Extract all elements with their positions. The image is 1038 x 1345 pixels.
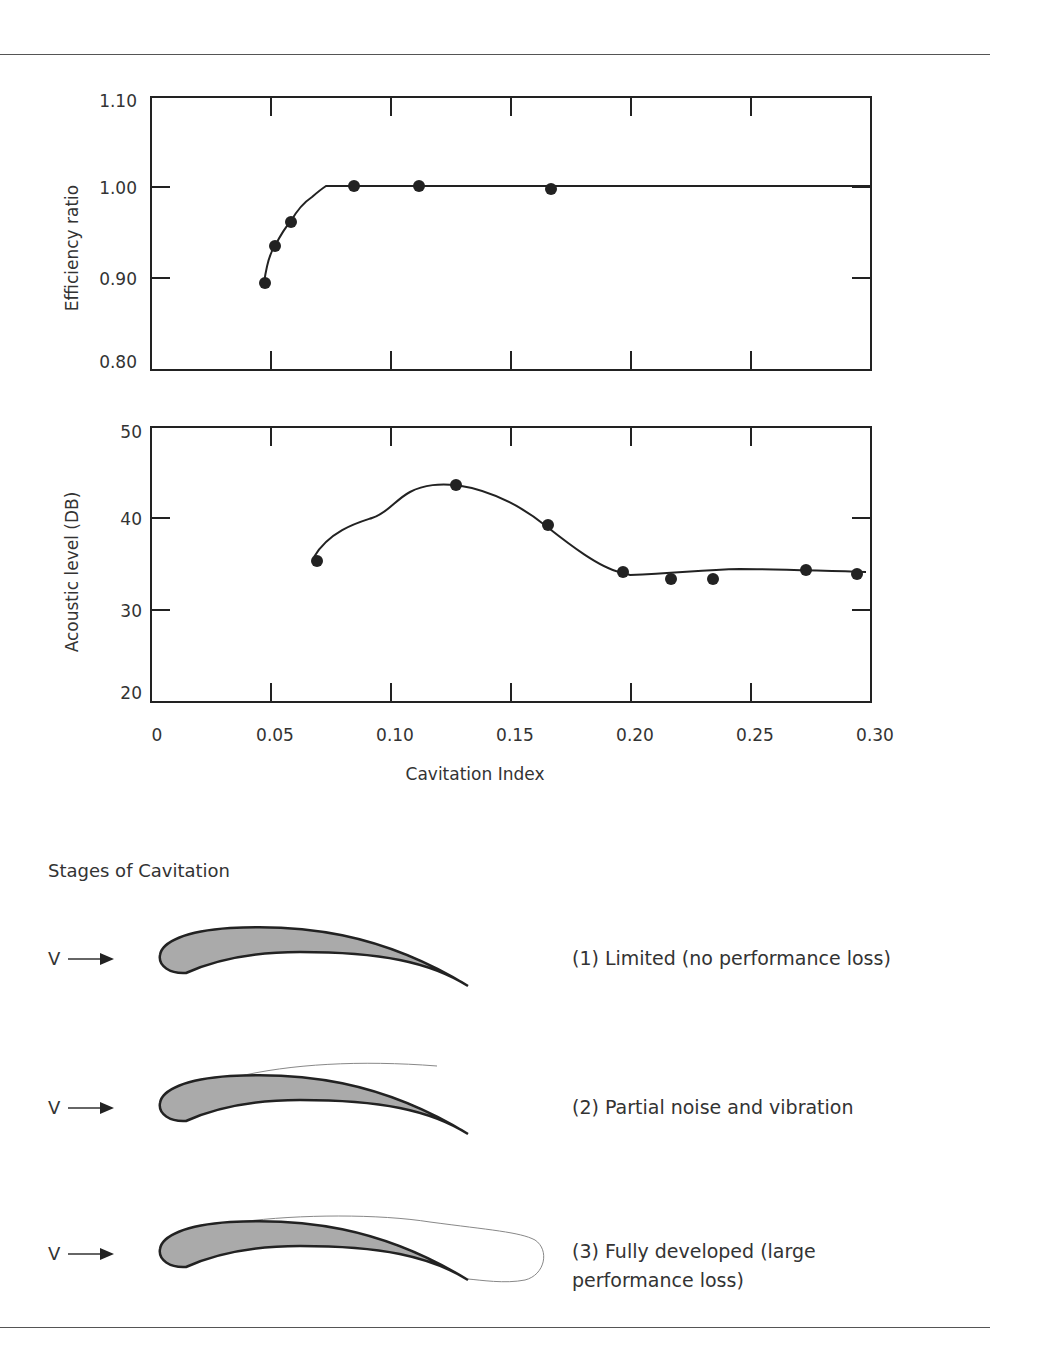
figure-canvas: 1.10 1.00 0.90 0.80 Efficiency ratio 50 <box>0 0 1038 1345</box>
flow-label: V <box>48 1097 61 1118</box>
flow-label: V <box>48 948 61 969</box>
y-tick-label: 1.00 <box>99 178 137 198</box>
acoustic-chart: 50 40 30 20 Acoustic level (DB) 0 0.05 0… <box>62 422 894 784</box>
x-tick-label: 0 <box>152 725 163 745</box>
x-tick-label: 0.20 <box>616 725 654 745</box>
y-tick-label: 20 <box>120 683 142 703</box>
y-tick-label: 0.80 <box>99 352 137 372</box>
x-tick-label: 0.15 <box>496 725 534 745</box>
y-tick-label: 30 <box>120 601 142 621</box>
stage-3-label-line1: (3) Fully developed (large <box>572 1237 816 1266</box>
flow-arrow-icon <box>68 1248 114 1260</box>
stage-3-diagram: V <box>48 1216 544 1282</box>
stage-3-label-line2: performance loss) <box>572 1266 816 1295</box>
stage-1-label: (1) Limited (no performance loss) <box>572 944 891 973</box>
y-axis-title: Acoustic level (DB) <box>62 492 82 653</box>
y-tick-label: 50 <box>120 422 142 442</box>
flow-label: V <box>48 1243 61 1264</box>
x-tick-label: 0.25 <box>736 725 774 745</box>
y-axis-title: Efficiency ratio <box>62 185 82 312</box>
efficiency-chart: 1.10 1.00 0.90 0.80 Efficiency ratio <box>62 91 871 372</box>
y-tick-label: 0.90 <box>99 269 137 289</box>
flow-arrow-icon <box>68 953 114 965</box>
stage-2-label: (2) Partial noise and vibration <box>572 1093 854 1122</box>
hydrofoil <box>160 1221 468 1280</box>
hydrofoil <box>160 1075 468 1134</box>
stage-3-label: (3) Fully developed (large performance l… <box>572 1237 816 1295</box>
x-tick-label: 0.05 <box>256 725 294 745</box>
flow-arrow-icon <box>68 1102 114 1114</box>
y-tick-label: 40 <box>120 509 142 529</box>
x-axis-title: Cavitation Index <box>406 764 545 784</box>
y-tick-label: 1.10 <box>99 91 137 111</box>
stage-2-diagram: V <box>48 1063 468 1134</box>
x-tick-label: 0.10 <box>376 725 414 745</box>
stages-title: Stages of Cavitation <box>48 860 230 881</box>
stage-1-diagram: V <box>48 927 468 986</box>
hydrofoil <box>160 927 468 986</box>
x-tick-label: 0.30 <box>856 725 894 745</box>
